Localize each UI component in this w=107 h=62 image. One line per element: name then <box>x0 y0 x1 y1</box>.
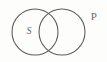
circle-set-s <box>12 9 58 55</box>
set-label-s: S <box>26 25 31 36</box>
venn-diagram-svg: S P <box>0 0 107 62</box>
venn-diagram: S P <box>0 0 107 62</box>
set-label-p: P <box>91 10 97 22</box>
circle-set-p <box>39 9 85 55</box>
